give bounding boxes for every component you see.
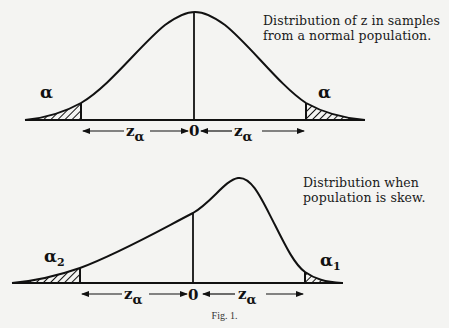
left-tail-hatch bbox=[25, 103, 81, 120]
diagram-canvas: α α zα 0 zα α2 α1 zα 0 zα bbox=[0, 0, 449, 328]
skew-distribution-panel: α2 α1 zα 0 zα bbox=[12, 178, 343, 307]
right-interval-z-skew: zα bbox=[238, 285, 257, 307]
figure-1: α α zα 0 zα α2 α1 zα 0 zα Distrib bbox=[0, 0, 449, 328]
right-interval-subscript-skew: α bbox=[247, 292, 257, 307]
right-tail-label: α bbox=[318, 82, 331, 102]
normal-caption-line1: Distribution of z in samples bbox=[263, 13, 440, 28]
left-interval-subscript: α bbox=[135, 129, 145, 144]
left-tail-label: α bbox=[40, 82, 53, 102]
right-tail-hatch bbox=[306, 103, 365, 120]
left-interval-subscript-skew: α bbox=[133, 292, 143, 307]
left-tail-subscript: 2 bbox=[57, 256, 65, 269]
left-interval-z: zα bbox=[126, 122, 145, 144]
left-tail-hatch-skew bbox=[12, 268, 80, 283]
left-interval-z-skew: zα bbox=[124, 285, 143, 307]
skew-caption-line2: population is skew. bbox=[303, 190, 425, 205]
right-interval-z: zα bbox=[234, 122, 253, 144]
skew-caption-line1: Distribution when bbox=[303, 175, 425, 190]
normal-caption-line2: from a normal population. bbox=[263, 28, 440, 43]
origin-label: 0 bbox=[189, 122, 199, 140]
right-interval-subscript: α bbox=[243, 129, 253, 144]
left-tail-label-skew: α2 bbox=[44, 246, 65, 269]
right-tail-label-skew: α1 bbox=[320, 250, 341, 273]
origin-label-skew: 0 bbox=[188, 286, 198, 304]
normal-caption: Distribution of z in samples from a norm… bbox=[263, 13, 440, 43]
skew-caption: Distribution when population is skew. bbox=[303, 175, 425, 205]
right-tail-subscript: 1 bbox=[333, 260, 341, 273]
figure-label: Fig. 1. bbox=[0, 310, 449, 321]
